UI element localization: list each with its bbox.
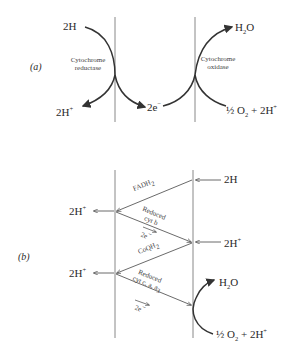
label-h2o-a: H2O [235, 22, 254, 36]
label-b-2h-plus-lower: 2H+ [69, 267, 86, 279]
oxidase-curve-down [195, 75, 226, 106]
label-b-2h-plus-right: 2H+ [224, 237, 241, 249]
label-half-o2-2h-a: ½ O2 + 2H+ [226, 104, 277, 118]
label-b-2h-right: 2H [224, 174, 237, 185]
label-cytochrome-oxidase: Cytochromeoxidase [195, 55, 241, 71]
label-cytochrome-reductase: Cytochromereductase [64, 56, 112, 72]
label-half-o2-2h-b: ½ O2 + 2H+ [216, 328, 267, 342]
diagram-canvas [0, 0, 299, 346]
label-h2o-b: H2O [219, 277, 238, 291]
label-2h-in: 2H [63, 21, 76, 32]
label-2e-minus: 2e− [147, 101, 161, 113]
panel-a-label: (a) [30, 62, 42, 72]
label-b-2h-plus-upper: 2H+ [69, 205, 86, 217]
reductase-curve-out-left [83, 75, 115, 106]
oxidase-curve-in [163, 75, 195, 106]
oxidase-curve-b [193, 280, 214, 334]
label-2h-plus-out: 2H+ [56, 106, 73, 118]
panel-b-label: (b) [18, 252, 30, 262]
reductase-curve-out-right [115, 75, 145, 107]
